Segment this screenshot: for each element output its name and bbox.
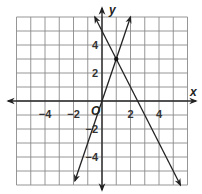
origin-label: O (91, 104, 101, 118)
y-tick-label: −4 (85, 151, 98, 163)
y-axis-label: y (108, 3, 117, 17)
x-tick-label: −4 (39, 108, 52, 120)
coordinate-plane: xyO−4−22442−2−4 (0, 0, 202, 194)
intersection-point (114, 57, 118, 61)
x-tick-label: −2 (67, 108, 80, 120)
plot-line-line-1 (75, 17, 131, 181)
x-tick-label: 2 (127, 108, 133, 120)
x-axis-label: x (189, 85, 198, 99)
tick-labels: xyO−4−22442−2−4 (39, 3, 198, 163)
x-tick-label: 4 (156, 108, 163, 120)
y-tick-label: −2 (85, 123, 98, 135)
y-tick-label: 4 (92, 39, 99, 51)
y-tick-label: 2 (92, 67, 98, 79)
